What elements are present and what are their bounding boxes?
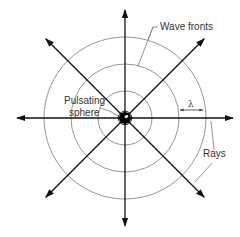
wave-fronts-label: Wave fronts (160, 21, 213, 32)
rays-leader-lower (195, 163, 212, 182)
pulsating-sphere-label-line1: Pulsating (64, 95, 105, 106)
pulsating-sphere-label-group: Pulsating sphere (64, 95, 118, 118)
wave-fronts-label-group: Wave fronts (138, 21, 213, 66)
rays-label-group: Rays (195, 121, 226, 182)
wave-fronts-leader-outer (148, 27, 158, 40)
wavelength-dimension: λ (180, 99, 203, 110)
pulsating-sphere (118, 111, 132, 125)
rays-leader-upper (211, 121, 214, 150)
wave-fronts-leader-inner (138, 27, 153, 66)
ray-315deg (125, 118, 204, 197)
wave-diagram: Wave fronts Pulsating sphere λ Rays (0, 0, 240, 237)
pulsating-sphere-label-line2: sphere (69, 107, 100, 118)
ray-225deg (46, 118, 125, 197)
wavelength-label: λ (188, 99, 194, 109)
rays-label: Rays (203, 148, 226, 159)
